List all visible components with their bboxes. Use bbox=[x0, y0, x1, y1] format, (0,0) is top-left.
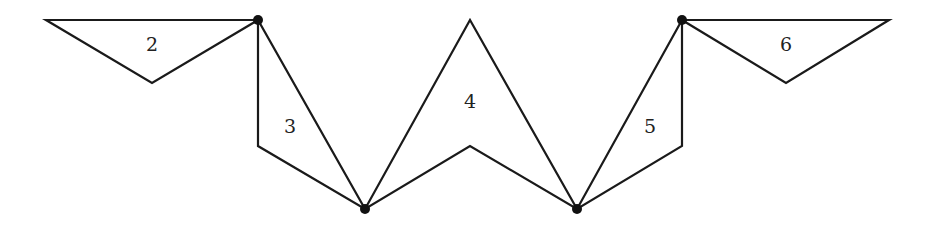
label-2: 2 bbox=[146, 33, 158, 55]
label-6: 6 bbox=[780, 33, 792, 55]
label-3: 3 bbox=[284, 115, 296, 137]
polygon-3 bbox=[258, 20, 365, 209]
vertex-dot-bottom-right bbox=[572, 204, 582, 214]
label-4: 4 bbox=[464, 90, 476, 112]
polygon-4 bbox=[365, 20, 577, 209]
vertex-dot-top-left bbox=[253, 15, 263, 25]
polygon-5 bbox=[577, 20, 682, 209]
vertex-dot-top-right bbox=[677, 15, 687, 25]
polygon-diagram: 2 3 4 5 6 bbox=[0, 0, 939, 232]
label-5: 5 bbox=[644, 115, 656, 137]
vertex-dot-bottom-left bbox=[360, 204, 370, 214]
